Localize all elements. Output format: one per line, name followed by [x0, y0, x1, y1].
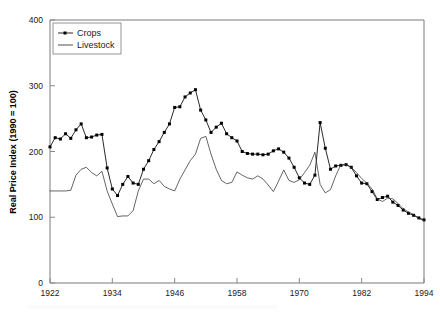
series-path [50, 90, 424, 220]
data-point-marker [261, 153, 264, 156]
data-point-marker [215, 126, 218, 129]
data-point-marker [293, 166, 296, 169]
data-point-marker [147, 159, 150, 162]
data-point-marker [64, 132, 67, 135]
caption-remnant [28, 305, 278, 309]
data-point-marker [230, 136, 233, 139]
data-point-marker [69, 137, 72, 140]
data-point-marker [59, 138, 62, 141]
data-point-marker [95, 134, 98, 137]
data-point-marker [272, 149, 275, 152]
data-point-marker [303, 182, 306, 185]
data-point-marker [106, 166, 109, 169]
data-point-marker [85, 136, 88, 139]
data-point-marker [100, 133, 103, 136]
data-point-marker [360, 182, 363, 185]
chart-canvas: 0100200300400 19221934194619581970198219… [0, 0, 440, 312]
data-point-marker [236, 139, 239, 142]
legend-label-crops: Crops [77, 28, 102, 38]
data-point-marker [391, 201, 394, 204]
data-point-marker [158, 140, 161, 143]
data-point-marker [386, 195, 389, 198]
data-point-marker [246, 152, 249, 155]
data-point-marker [121, 183, 124, 186]
data-point-marker [308, 183, 311, 186]
x-tick-label: 1982 [352, 288, 371, 298]
data-point-marker [194, 88, 197, 91]
data-point-marker [126, 175, 129, 178]
data-point-marker [329, 168, 332, 171]
caption-remnant-band [28, 305, 278, 309]
data-point-marker [163, 131, 166, 134]
x-tick-label: 1994 [415, 288, 434, 298]
y-tick-label: 200 [29, 147, 43, 157]
data-point-marker [282, 151, 285, 154]
data-point-marker [168, 122, 171, 125]
y-axis: 0100200300400 [29, 15, 55, 288]
data-point-marker [189, 91, 192, 94]
x-tick-label: 1946 [165, 288, 184, 298]
series-path [50, 136, 424, 220]
x-tick-label: 1922 [41, 288, 60, 298]
data-point-marker [204, 118, 207, 121]
legend-label-livestock: Livestock [77, 40, 115, 50]
data-point-marker [381, 196, 384, 199]
data-point-marker [90, 136, 93, 139]
x-tick-label: 1934 [103, 288, 122, 298]
data-point-marker [225, 132, 228, 135]
data-point-marker [220, 122, 223, 125]
data-point-marker [287, 157, 290, 160]
data-point-marker [199, 109, 202, 112]
series-crops [49, 88, 426, 221]
data-point-marker [54, 136, 57, 139]
plot-frame [50, 20, 424, 283]
data-point-marker [319, 121, 322, 124]
data-point-marker [334, 164, 337, 167]
data-point-marker [49, 145, 52, 148]
y-tick-label: 0 [38, 278, 43, 288]
data-point-marker [251, 153, 254, 156]
legend: Crops Livestock [53, 23, 121, 54]
data-point-marker [132, 182, 135, 185]
x-tick-label: 1958 [228, 288, 247, 298]
data-point-marker [184, 95, 187, 98]
data-point-marker [241, 150, 244, 153]
data-point-marker [267, 153, 270, 156]
y-tick-label: 300 [29, 81, 43, 91]
data-point-marker [178, 105, 181, 108]
data-point-marker [277, 147, 280, 150]
data-point-marker [173, 106, 176, 109]
data-point-marker [116, 194, 119, 197]
data-point-marker [324, 147, 327, 150]
y-tick-label: 400 [29, 15, 43, 25]
x-tick-label: 1970 [290, 288, 309, 298]
legend-swatch-crops-marker [64, 32, 67, 35]
series-livestock [50, 136, 424, 220]
y-axis-title: Real Price Index (1990 = 100) [8, 90, 18, 213]
data-point-marker [142, 168, 145, 171]
data-point-marker [137, 183, 140, 186]
data-point-marker [152, 148, 155, 151]
data-point-marker [210, 131, 213, 134]
data-point-marker [355, 174, 358, 177]
x-axis: 1922193419461958197019821994 [41, 278, 434, 298]
chart-figure: 0100200300400 19221934194619581970198219… [0, 0, 440, 312]
data-point-marker [80, 122, 83, 125]
data-point-marker [256, 153, 259, 156]
data-point-marker [313, 174, 316, 177]
data-series-group [49, 88, 426, 221]
data-point-marker [74, 128, 77, 131]
y-tick-label: 100 [29, 212, 43, 222]
data-point-marker [111, 187, 114, 190]
